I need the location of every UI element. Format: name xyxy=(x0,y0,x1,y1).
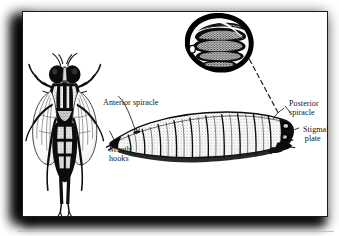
label-stigmal-plate: Stigmal plate xyxy=(303,125,328,144)
posterior-spiracle-inset-illustration xyxy=(185,13,254,73)
label-stigmal-plate-line1: Stigmal xyxy=(303,125,328,134)
scan-baseline-streak xyxy=(18,231,334,232)
leader-line-mouth-hooks xyxy=(109,131,114,141)
adult-fly-illustration xyxy=(26,54,103,216)
figure-plate: Anterior spiracle Mouth hooks Posterior … xyxy=(22,11,328,217)
figure-root: Anterior spiracle Mouth hooks Posterior … xyxy=(0,0,339,236)
label-mouth-hooks-line2: hooks xyxy=(109,154,131,163)
label-mouth-hooks: Mouth hooks xyxy=(109,145,131,164)
leader-line-inset-to-larva xyxy=(250,60,280,115)
figure-artwork xyxy=(23,12,327,216)
label-mouth-hooks-line1: Mouth xyxy=(109,145,131,154)
label-posterior-spiracle: Posterior spiracle xyxy=(289,99,319,118)
label-anterior-spiracle-text: Anterior spiracle xyxy=(103,98,158,107)
label-posterior-spiracle-line2: spiracle xyxy=(289,108,319,117)
larva-illustration xyxy=(106,112,295,163)
label-posterior-spiracle-line1: Posterior xyxy=(289,99,319,108)
label-anterior-spiracle: Anterior spiracle xyxy=(103,98,158,107)
label-stigmal-plate-line2: plate xyxy=(303,134,328,143)
